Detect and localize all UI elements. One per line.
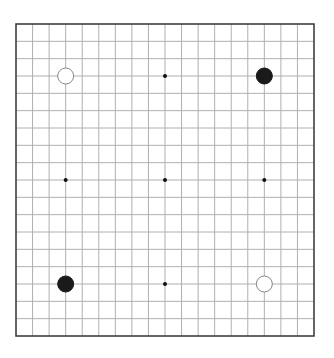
go-board[interactable] <box>0 0 334 358</box>
black-stone[interactable] <box>58 276 74 292</box>
black-stone[interactable] <box>256 68 272 84</box>
white-stone[interactable] <box>256 276 272 292</box>
star-point <box>262 178 266 182</box>
white-stone[interactable] <box>58 68 74 84</box>
star-point <box>163 282 167 286</box>
star-point <box>163 74 167 78</box>
star-point <box>64 178 68 182</box>
star-point <box>163 178 167 182</box>
